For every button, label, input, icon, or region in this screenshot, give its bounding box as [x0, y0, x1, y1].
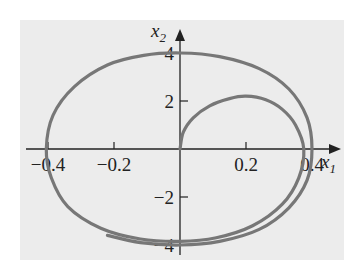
- x-tick-label: 0.2: [234, 154, 258, 175]
- y-tick-label: −2: [154, 187, 174, 208]
- y-tick-label: 2: [165, 91, 175, 112]
- x-tick-label: −0.2: [97, 154, 131, 175]
- phase-plot: −0.4−0.20.20.4−4−224 x2 x1: [0, 0, 361, 270]
